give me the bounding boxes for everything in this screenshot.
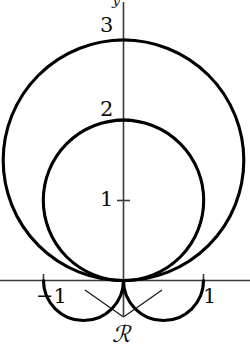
y-tick-label-3: 3 [100,15,113,36]
math-figure: y 3 2 1 −1 1 ℛ [0,0,250,348]
x-tick-label-minus-1: −1 [36,286,67,307]
y-axis-label: y [112,0,120,8]
region-label: ℛ [112,323,130,346]
x-tick-label-1: 1 [203,286,216,307]
right-lower-arc [124,281,204,321]
y-tick-label-2: 2 [100,99,113,120]
y-tick-label-1: 1 [100,189,113,210]
